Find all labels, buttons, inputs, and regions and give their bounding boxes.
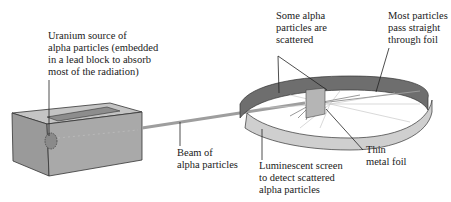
lead-block	[12, 103, 142, 176]
metal-foil	[306, 88, 325, 118]
label-line: Thin	[366, 144, 407, 156]
label-line: scattered	[276, 34, 327, 46]
label-pass-straight: Most particles pass straight through foi…	[388, 10, 448, 46]
uranium-source-icon	[45, 133, 57, 149]
label-beam: Beam of alpha particles	[177, 147, 238, 171]
label-line: alpha particles (embedded	[48, 42, 158, 54]
label-line: in a lead block to absorb	[48, 54, 158, 66]
detector-ring	[240, 76, 432, 150]
label-line: particles are	[276, 22, 327, 34]
label-metal-foil: Thin metal foil	[366, 144, 407, 168]
label-uranium-source: Uranium source of alpha particles (embed…	[48, 30, 158, 78]
label-line: Beam of	[177, 147, 238, 159]
label-scattered: Some alpha particles are scattered	[276, 10, 327, 46]
label-line: most of the radiation)	[48, 66, 158, 78]
label-line: through foil	[388, 34, 448, 46]
label-line: Luminescent screen	[259, 160, 343, 172]
label-line: pass straight	[388, 22, 448, 34]
label-line: metal foil	[366, 156, 407, 168]
label-line: alpha particles	[259, 184, 343, 196]
label-line: Some alpha	[276, 10, 327, 22]
label-line: Uranium source of	[48, 30, 158, 42]
label-line: Most particles	[388, 10, 448, 22]
label-luminescent-screen: Luminescent screen to detect scattered a…	[259, 160, 343, 196]
label-line: alpha particles	[177, 159, 238, 171]
label-line: to detect scattered	[259, 172, 343, 184]
